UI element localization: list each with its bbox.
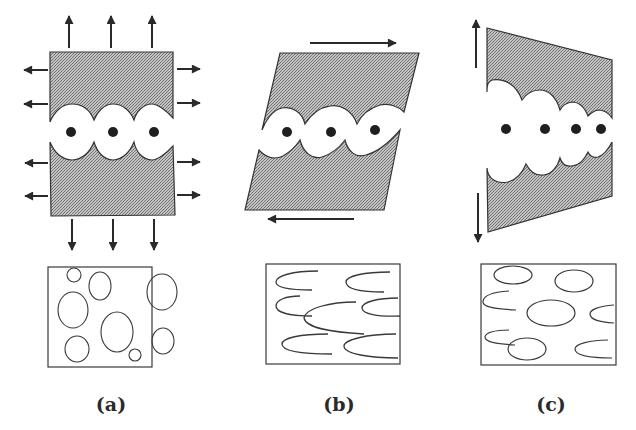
microstructure-c <box>481 264 616 365</box>
particle <box>66 127 76 137</box>
panel-label-b: (b) <box>323 393 354 415</box>
material-block-a-lower <box>50 142 175 216</box>
panel-b <box>245 43 419 364</box>
bending-arrows <box>476 20 478 242</box>
particle <box>540 124 550 134</box>
tension-arrows-left <box>24 70 48 196</box>
material-block-c-upper <box>487 28 612 118</box>
particle <box>501 124 511 134</box>
material-block-a <box>50 52 173 122</box>
tension-arrows-bottom <box>72 219 154 250</box>
tension-arrows-top <box>69 16 152 48</box>
microstructure-a <box>48 267 177 367</box>
tension-arrows-right <box>177 69 200 195</box>
material-block-c-lower <box>487 142 612 232</box>
panel-label-a: (a) <box>96 393 126 415</box>
void-growth-diagram <box>0 0 636 430</box>
panel-c <box>476 20 616 365</box>
material-block-b <box>262 53 419 130</box>
panel-label-c: (c) <box>536 393 566 415</box>
panel-a <box>24 16 200 367</box>
microstructure-b <box>266 264 400 364</box>
particle <box>108 127 118 137</box>
particle <box>282 127 292 137</box>
particle <box>370 125 380 135</box>
particle <box>571 124 581 134</box>
material-block-b-lower <box>245 130 400 210</box>
particle <box>149 127 159 137</box>
particle <box>596 124 606 134</box>
particle <box>326 127 336 137</box>
